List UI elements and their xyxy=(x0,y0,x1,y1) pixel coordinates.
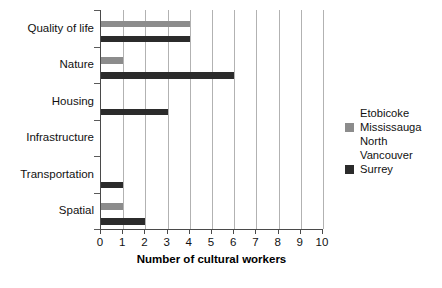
x-axis-tick-label: 9 xyxy=(288,236,312,248)
x-axis-tick xyxy=(322,229,323,234)
x-axis-tick xyxy=(189,229,190,234)
bar xyxy=(101,218,145,224)
bar xyxy=(101,21,190,27)
legend-item-label: Etobicoke xyxy=(360,106,440,120)
y-axis-tick xyxy=(94,229,100,230)
gridline xyxy=(168,10,169,229)
bar xyxy=(101,109,168,115)
legend-swatch-icon xyxy=(345,123,354,132)
gridline xyxy=(190,10,191,229)
legend-item-label: North Vancouver xyxy=(360,134,440,162)
x-axis-tick-label: 10 xyxy=(310,236,334,248)
y-axis-tick xyxy=(94,10,100,11)
legend-item[interactable]: Mississauga xyxy=(345,120,440,134)
x-axis-title: Number of cultural workers xyxy=(100,253,323,265)
gridline xyxy=(145,10,146,229)
legend-swatch-icon xyxy=(345,109,354,118)
x-axis-tick-label: 1 xyxy=(110,236,134,248)
x-axis-tick xyxy=(255,229,256,234)
bar xyxy=(101,72,234,78)
x-axis-tick-label: 2 xyxy=(132,236,156,248)
x-axis-tick-label: 3 xyxy=(155,236,179,248)
y-axis-tick xyxy=(94,193,100,194)
chart-figure: Quality of lifeNatureHousingInfrastructu… xyxy=(0,0,442,288)
x-axis-tick-label: 8 xyxy=(266,236,290,248)
gridline xyxy=(301,10,302,229)
chart-legend: EtobicokeMississaugaNorth VancouverSurre… xyxy=(345,106,440,176)
x-axis-tick-label: 5 xyxy=(199,236,223,248)
legend-swatch-icon xyxy=(345,137,354,146)
gridline xyxy=(234,10,235,229)
y-axis-tick xyxy=(94,83,100,84)
bar xyxy=(101,203,123,209)
x-axis-tick-label: 6 xyxy=(221,236,245,248)
gridline xyxy=(279,10,280,229)
bar xyxy=(101,182,123,188)
y-axis-tick xyxy=(94,47,100,48)
bar xyxy=(101,36,190,42)
x-axis-tick xyxy=(278,229,279,234)
x-axis-tick xyxy=(144,229,145,234)
x-axis-tick xyxy=(300,229,301,234)
gridline xyxy=(123,10,124,229)
bar xyxy=(101,57,123,63)
legend-item[interactable]: Surrey xyxy=(345,162,440,176)
y-axis-category-label: Quality of life xyxy=(0,22,94,35)
legend-item-label: Surrey xyxy=(360,162,440,176)
x-axis-tick-label: 4 xyxy=(177,236,201,248)
y-axis-tick xyxy=(94,120,100,121)
x-axis-tick-label: 0 xyxy=(88,236,112,248)
y-axis-category-label: Transportation xyxy=(0,168,94,181)
legend-item-label: Mississauga xyxy=(360,120,440,134)
y-axis-category-label: Infrastructure xyxy=(0,131,94,144)
y-axis-category-label: Nature xyxy=(0,58,94,71)
y-axis-category-label: Housing xyxy=(0,95,94,108)
x-axis-tick xyxy=(100,229,101,234)
gridline xyxy=(256,10,257,229)
legend-item[interactable]: Etobicoke xyxy=(345,106,440,120)
plot-area xyxy=(100,10,324,229)
x-axis-tick xyxy=(167,229,168,234)
gridline xyxy=(212,10,213,229)
x-axis-tick xyxy=(122,229,123,234)
gridline xyxy=(323,10,324,229)
x-axis-tick xyxy=(233,229,234,234)
legend-swatch-icon xyxy=(345,165,354,174)
y-axis-category-label: Spatial xyxy=(0,204,94,217)
x-axis-tick xyxy=(211,229,212,234)
y-axis-tick xyxy=(94,156,100,157)
y-axis-category-labels: Quality of lifeNatureHousingInfrastructu… xyxy=(0,10,97,229)
x-axis-tick-label: 7 xyxy=(243,236,267,248)
legend-item[interactable]: North Vancouver xyxy=(345,134,440,162)
